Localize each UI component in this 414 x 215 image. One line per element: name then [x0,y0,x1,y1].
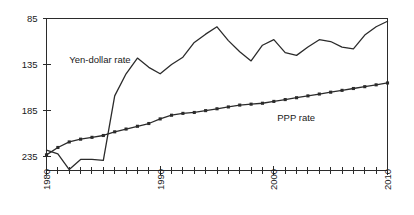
series-data-point [295,96,298,99]
x-tick-label: 2000 [268,169,279,190]
series-data-point [352,87,355,90]
series-label-ppp-rate: PPP rate [277,112,315,123]
series-data-point [340,89,343,92]
y-tick-label: 185 [22,105,38,116]
series-data-point [56,146,59,149]
series-data-point [90,136,93,139]
plot-area-border [47,19,388,171]
series-data-point [181,112,184,115]
series-data-point [45,153,48,156]
series-data-point [261,102,264,105]
series-label-yen-dollar-rate: Yen-dollar rate [69,54,130,65]
series-data-point [79,138,82,141]
series-data-point [147,122,150,125]
series-data-point [113,130,116,133]
x-tick-label: 1990 [155,169,166,190]
series-data-point [306,94,309,97]
series-data-point [386,81,389,84]
series-data-point [227,105,230,108]
series-data-point [68,140,71,143]
x-tick-label: 2010 [382,169,393,190]
series-ppp-rate [45,81,389,156]
chart-container: 85135185235 1980199020002010 Yen-dollar … [0,0,414,215]
series-data-point [375,83,378,86]
yen-dollar-ppp-line-chart: 85135185235 1980199020002010 Yen-dollar … [0,0,414,215]
data-series-group [45,21,389,169]
series-yen-dollar-rate [47,21,388,169]
plot-frame-top-right [47,19,388,171]
series-data-point [102,134,105,137]
series-data-point [170,114,173,117]
series-data-point [125,128,128,131]
y-tick-label: 135 [22,59,38,70]
y-axis: 85135185235 [22,13,51,171]
series-data-point [136,125,139,128]
series-data-point [272,100,275,103]
series-data-point [284,98,287,101]
series-line [47,21,388,169]
series-data-point [363,85,366,88]
x-tick-label: 1980 [41,169,52,190]
series-data-point [318,92,321,95]
y-tick-label: 85 [27,13,38,24]
x-axis: 1980199020002010 [41,166,393,190]
series-data-point [193,111,196,114]
series-data-point [329,91,332,94]
series-data-point [159,117,162,120]
series-line [47,83,388,155]
series-data-point [238,104,241,107]
y-tick-label: 235 [22,151,38,162]
series-data-point [215,107,218,110]
series-data-point [204,109,207,112]
series-data-point [250,103,253,106]
